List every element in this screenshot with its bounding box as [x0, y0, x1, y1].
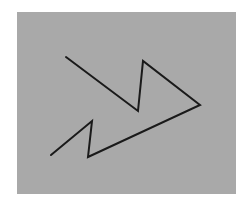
- zigzag-drawing: [0, 0, 246, 205]
- zigzag-line: [51, 57, 200, 157]
- figure-canvas: [0, 0, 246, 205]
